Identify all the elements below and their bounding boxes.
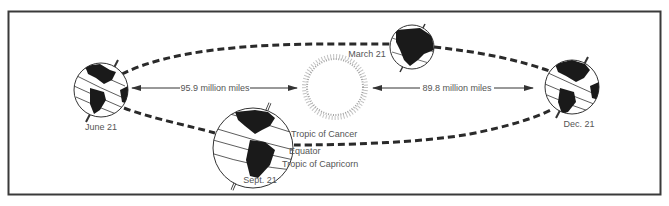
label-sept: Sept. 21 (243, 175, 277, 185)
label-tropic-cancer: Tropic of Cancer (291, 129, 357, 139)
aphelion-label: 95.9 million miles (180, 83, 250, 93)
globe-june-icon (74, 60, 128, 122)
orbit-diagram: 95.9 million miles 89.8 million miles Ju… (0, 0, 669, 206)
sun-icon (304, 56, 366, 118)
globe-dec-icon (545, 57, 599, 118)
label-tropic-capricorn: Tropic of Capricorn (282, 159, 358, 169)
perihelion-distance: 89.8 million miles (373, 83, 533, 93)
perihelion-label: 89.8 million miles (422, 83, 492, 93)
label-june: June 21 (85, 122, 117, 132)
label-equator: Equator (289, 146, 321, 156)
label-dec: Dec. 21 (563, 119, 594, 129)
aphelion-distance: 95.9 million miles (132, 83, 297, 93)
globe-march-icon (390, 24, 434, 72)
label-march: March 21 (348, 49, 386, 59)
